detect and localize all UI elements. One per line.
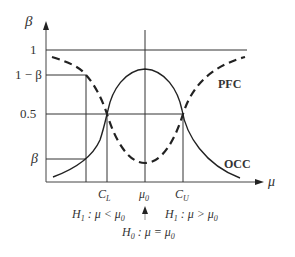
- hypothesis-h1-left: H1 : μ < μ0: [71, 207, 125, 223]
- y-tick-beta: β: [30, 151, 38, 166]
- y-tick-1: 1: [30, 42, 37, 57]
- occ-label: OCC: [224, 157, 251, 171]
- x-tick-cl: CL: [98, 187, 111, 203]
- hypothesis-h0: H0 : μ = μ0: [121, 225, 175, 241]
- diagram-canvas: 1 1 − β 0.5 β β μ CL μ0 CU PFC OCC H1 : …: [0, 0, 295, 257]
- y-tick-0-5: 0.5: [20, 106, 36, 121]
- x-axis-label: μ: [267, 174, 275, 189]
- hypothesis-h1-right: H1 : μ > μ0: [164, 207, 218, 223]
- x-tick-cu: CU: [175, 187, 190, 203]
- pfc-label: PFC: [218, 77, 241, 91]
- x-tick-mu0: μ0: [138, 187, 149, 203]
- pfc-curve: [52, 57, 245, 163]
- y-tick-1-minus-beta: 1 − β: [15, 67, 42, 82]
- y-axis-label: β: [24, 13, 33, 29]
- occ-curve: [53, 69, 240, 178]
- y-axis-arrow-icon: [43, 21, 49, 30]
- x-axis-arrow-icon: [255, 179, 264, 185]
- h0-arrow-icon: [142, 206, 148, 214]
